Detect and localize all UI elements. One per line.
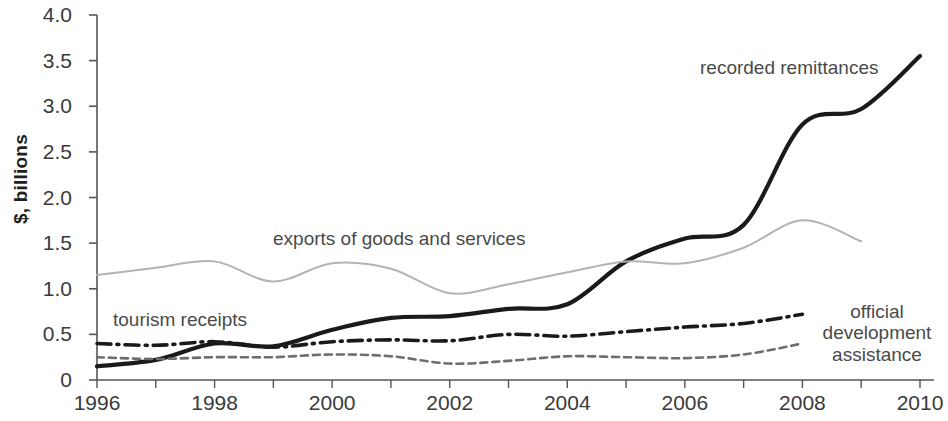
x-tick-label: 2010: [885, 392, 948, 413]
x-tick-label: 2008: [767, 392, 837, 413]
annotation-recorded-remittances: recorded remittances: [700, 57, 878, 78]
annotation-tourism-receipts: tourism receipts: [113, 309, 247, 330]
annotation-exports: exports of goods and services: [273, 228, 525, 249]
oda-label-line2: development: [823, 322, 932, 343]
oda-label-line1: official: [850, 301, 904, 322]
x-tick-label: 2004: [532, 392, 602, 413]
x-tick-label: 1998: [180, 392, 250, 413]
x-tick-label: 2006: [650, 392, 720, 413]
oda-label-line3: assistance: [832, 344, 922, 365]
annotation-official-development-assistance: official development assistance: [818, 301, 936, 365]
x-tick-label: 1996: [62, 392, 132, 413]
x-tick-label: 2002: [415, 392, 485, 413]
x-tick-label: 2000: [297, 392, 367, 413]
